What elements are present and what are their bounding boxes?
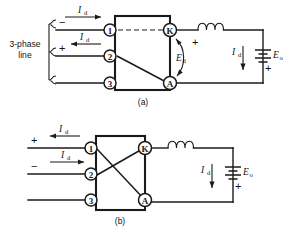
dc-current-label: I [231, 47, 236, 57]
ac-line-2-current-label: I [79, 32, 84, 42]
bridge-voltage-arrowhead-bottom [177, 70, 183, 76]
source-bracket-bottom [49, 76, 56, 84]
b-terminal-1-label: 1 [89, 144, 94, 154]
b-dc-current-sub: d [207, 169, 211, 176]
dc-current-sub: d [238, 51, 242, 58]
source-bracket-middle [49, 48, 56, 56]
b-terminal-2-label: 2 [89, 170, 94, 180]
b-ac-line-1-current-sub: d [65, 128, 69, 135]
dc-current-arrowhead [240, 64, 245, 71]
source-label-line1: 3-phase [9, 39, 40, 49]
battery-sub: o [280, 54, 284, 61]
b-smoothing-inductor-coil [168, 141, 194, 148]
ac-line-1-current-sub: d [84, 9, 88, 16]
panel-b: + I d − I d 1 2 3 K A [28, 124, 254, 226]
terminal-A-label: A [167, 79, 174, 89]
terminal-K-label: K [166, 26, 173, 36]
b-terminal-K-label: K [141, 144, 148, 154]
terminal-2-label: 2 [108, 52, 113, 62]
ac-line-2-polarity: + [59, 42, 65, 54]
ac-line-2-current-arrowhead [71, 41, 77, 46]
battery-label: E [272, 50, 279, 60]
b-ac-line-2-current-arrowhead [78, 159, 84, 164]
source-bracket-top [49, 20, 56, 28]
terminal-1-label: 1 [108, 26, 113, 36]
smoothing-inductor-coil [198, 23, 224, 30]
b-battery-polarity: + [235, 180, 241, 192]
b-ac-line-1-current-arrowhead [50, 133, 56, 138]
panel-b-caption: (b) [115, 216, 126, 226]
ac-line-1-current-label: I [77, 5, 82, 15]
b-ac-line-2-polarity: − [31, 160, 37, 172]
b-dc-current-arrowhead [209, 182, 214, 189]
panel-a-caption: (a) [138, 97, 149, 107]
b-ac-line-1-current-label: I [58, 124, 63, 134]
b-ac-line-2-current-label: I [60, 150, 65, 160]
ac-line-1-polarity: − [59, 16, 65, 28]
b-terminal-A-label: A [142, 196, 149, 206]
b-terminal-3-label: 3 [89, 196, 94, 206]
panel-a: 3-phase line − I d + I d 1 2 3 K [9, 5, 283, 107]
b-battery-sub: o [250, 171, 254, 178]
b-dc-current-label: I [200, 165, 205, 175]
ac-line-2-current-sub: d [86, 36, 90, 43]
b-ac-line-2-current-sub: d [67, 154, 71, 161]
bridge-voltage-label: E [175, 53, 182, 63]
circuit-diagram-svg: 3-phase line − I d + I d 1 2 3 K [0, 0, 286, 238]
b-battery-label: E [242, 167, 249, 177]
bridge-voltage-sub: d [183, 57, 187, 64]
bridge-voltage-polarity: + [192, 36, 198, 48]
b-ac-line-1-polarity: + [31, 134, 37, 146]
figure-root: 3-phase line − I d + I d 1 2 3 K [0, 0, 286, 238]
ac-line-1-current-arrowhead [95, 14, 101, 19]
battery-polarity: + [265, 62, 271, 74]
source-label-line2: line [18, 50, 32, 60]
terminal-3-label: 3 [108, 79, 113, 89]
